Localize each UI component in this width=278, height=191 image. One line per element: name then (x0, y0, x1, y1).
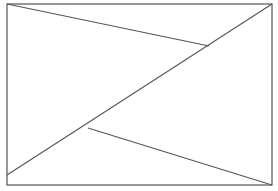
main-diagonal-line (7, 4, 272, 175)
lower-segment-line (88, 128, 272, 185)
geometric-diagram (0, 0, 278, 191)
upper-segment-line (7, 4, 209, 46)
